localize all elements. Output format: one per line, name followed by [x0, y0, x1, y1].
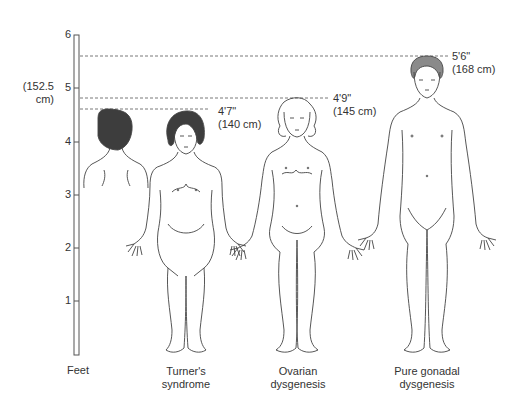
height-label-168cm: 5'6" (168 cm)	[452, 50, 495, 76]
cm-conversion-note: (152.5 cm)	[20, 80, 54, 106]
scale-tick-2: 2	[59, 241, 71, 253]
caption-ovarian-dysgenesis: Ovarian dysgenesis	[262, 365, 334, 391]
caption-pure-gonadal-dysgenesis: Pure gonadal dysgenesis	[382, 365, 472, 391]
ovarian-dysgenesis-figure	[230, 98, 364, 352]
scale-unit-label: Feet	[60, 364, 96, 377]
caption-turners-syndrome: Turner's syndrome	[150, 365, 222, 391]
scale-tick-5: 5	[59, 81, 71, 93]
height-scale-bar	[74, 35, 79, 355]
turner-back-view-figure	[84, 109, 148, 188]
scale-tick-1: 1	[59, 294, 71, 306]
pure-gonadal-dysgenesis-figure	[358, 56, 496, 352]
scale-tick-6: 6	[59, 28, 71, 40]
scale-tick-4: 4	[59, 135, 71, 147]
turner-front-figure	[126, 111, 246, 352]
height-label-140cm: 4'7" (140 cm)	[218, 105, 261, 131]
height-label-145cm: 4'9" (145 cm)	[333, 92, 376, 118]
diagram-canvas	[0, 0, 517, 402]
scale-tick-3: 3	[59, 188, 71, 200]
